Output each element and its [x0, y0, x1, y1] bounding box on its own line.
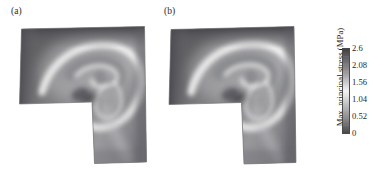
colorbar-tick-2: 1.56 — [352, 77, 367, 87]
contour-field-b — [168, 26, 298, 166]
colorbar-gradient-svg — [343, 49, 349, 133]
colorbar-gradient-strip — [342, 48, 350, 134]
panel-label-b: (b) — [164, 6, 175, 16]
colorbar-tick-3: 1.04 — [352, 94, 367, 104]
colorbar-tick-0: 2.6 — [352, 43, 363, 53]
panel-label-a: (a) — [11, 6, 22, 16]
colorbar-tick-1: 2.08 — [352, 60, 367, 70]
colorbar-tick-labels: 2.6 2.08 1.56 1.04 0.52 0 — [352, 43, 386, 143]
colorbar: Max. principal stress (MPa) — [318, 24, 387, 172]
contour-plot-a — [18, 26, 148, 166]
contour-svg-a — [18, 26, 148, 166]
colorbar-tick-5: 0 — [352, 128, 356, 138]
contour-field-a — [18, 26, 148, 166]
colorbar-tick-4: 0.52 — [352, 111, 367, 121]
figure-root: (a) (b) — [0, 0, 387, 172]
contour-svg-b — [168, 26, 298, 166]
contour-plot-b — [168, 26, 298, 166]
